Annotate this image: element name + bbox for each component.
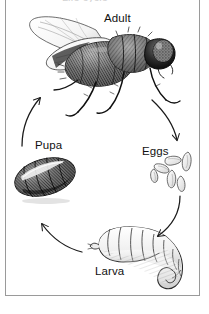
arrow-eggs-to-larva	[158, 196, 180, 236]
arrow-adult-to-eggs	[152, 100, 177, 140]
fly-life-cycle-figure: Life cycle	[0, 0, 209, 314]
stage-label-eggs: Eggs	[142, 145, 169, 157]
fly-larva-icon	[88, 227, 183, 289]
arrow-larva-to-pupa	[42, 224, 82, 252]
fly-pupa-icon	[10, 151, 80, 204]
fly-eggs-icon	[151, 152, 192, 191]
stage-label-pupa: Pupa	[35, 139, 62, 151]
stage-label-adult: Adult	[104, 12, 131, 24]
stage-label-larva: Larva	[95, 265, 124, 277]
adult-fly-icon	[30, 17, 180, 116]
